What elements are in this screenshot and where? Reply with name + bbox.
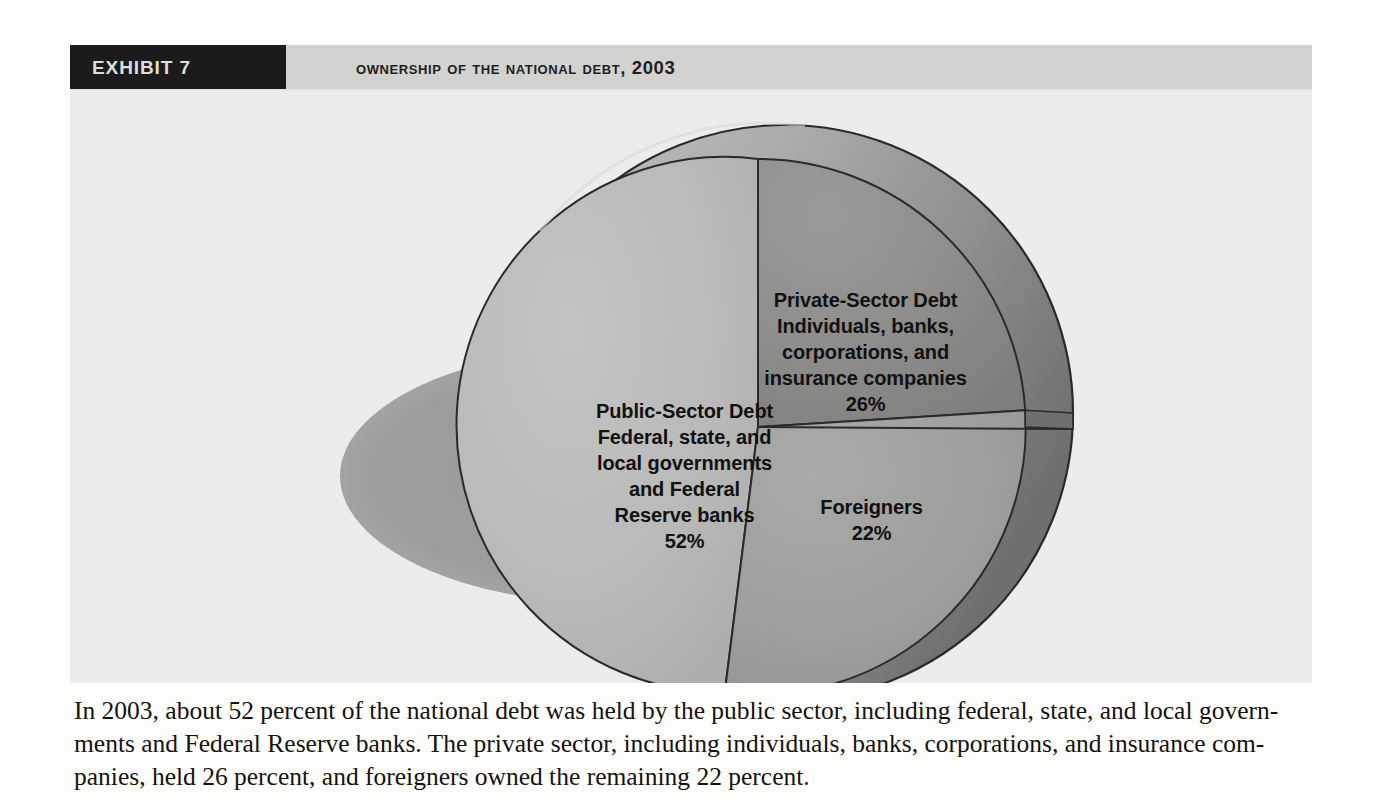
page-background: EXHIBIT 7 Ownership of the National Debt…	[0, 0, 1375, 805]
exhibit-number-label: EXHIBIT 7	[92, 57, 191, 79]
pie-label-public-sector: Public-Sector Debt Federal, state, and l…	[557, 398, 812, 554]
exhibit-caption: In 2003, about 52 percent of the nationa…	[74, 694, 1329, 793]
exhibit-panel: EXHIBIT 7 Ownership of the National Debt…	[70, 45, 1312, 683]
pie-chart-canvas: Public-Sector Debt Federal, state, and l…	[70, 91, 1312, 683]
caption-line-1: In 2003, about 52 percent of the nationa…	[74, 694, 1329, 727]
caption-line-3: panies, held 26 percent, and foreigners …	[74, 760, 1329, 793]
exhibit-header-band: EXHIBIT 7 Ownership of the National Debt…	[70, 45, 1312, 91]
pie-chart-graphic	[70, 91, 1312, 683]
exhibit-title: Ownership of the National Debt, 2003	[356, 45, 675, 91]
exhibit-number-tag: EXHIBIT 7	[70, 45, 286, 91]
pie-side-wall	[1025, 410, 1073, 429]
pie-label-private-sector: Private-Sector Debt Individuals, banks, …	[733, 287, 998, 417]
pie-label-foreigners: Foreigners 22%	[784, 494, 959, 546]
caption-line-2: ments and Federal Reserve banks. The pri…	[74, 727, 1329, 760]
